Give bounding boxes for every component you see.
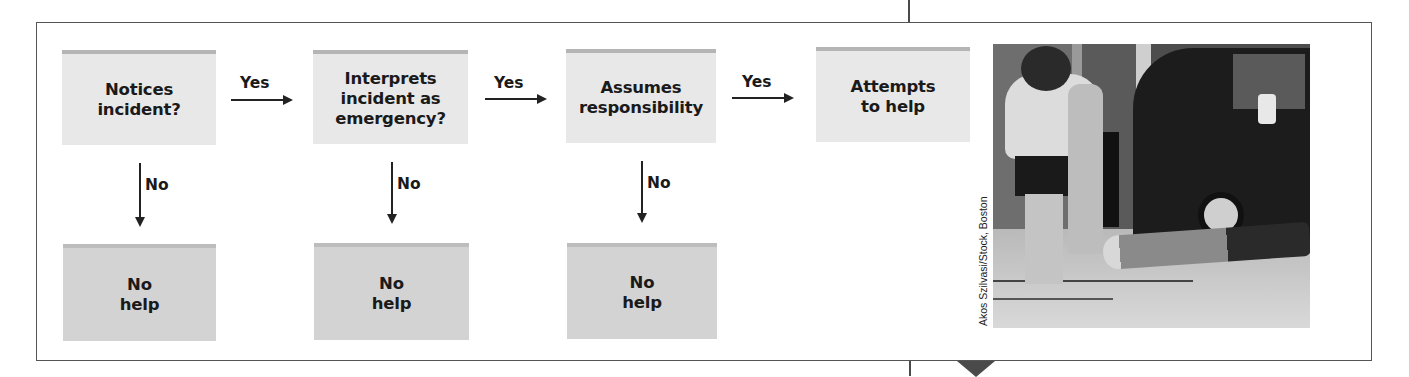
yes-label: Yes bbox=[240, 74, 270, 92]
outcome-label: No help bbox=[372, 274, 412, 314]
pedestrian-hair bbox=[1021, 46, 1071, 91]
pedestrian-shorts bbox=[1015, 156, 1073, 196]
yes-arrow-icon bbox=[231, 99, 291, 101]
bollard bbox=[1103, 132, 1119, 227]
step-notices-incident: Notices incident? bbox=[62, 50, 216, 145]
no-label: No bbox=[647, 174, 671, 192]
outcome-no-help: No help bbox=[314, 243, 469, 340]
step-label: Interprets incident as emergency? bbox=[335, 69, 446, 129]
no-label: No bbox=[145, 176, 169, 194]
sidewalk-crack bbox=[993, 280, 1193, 282]
no-arrow-icon bbox=[391, 162, 393, 222]
pedestrian-legs bbox=[1025, 194, 1063, 284]
step-interprets-emergency: Interprets incident as emergency? bbox=[313, 50, 468, 144]
page-marker-triangle-icon bbox=[957, 361, 995, 377]
yes-arrow-icon bbox=[732, 97, 792, 99]
photo-credit: Akos Szilvasi/Stock, Boston bbox=[977, 196, 989, 326]
sidewalk-crack bbox=[993, 298, 1113, 300]
van-mirror bbox=[1258, 94, 1276, 124]
yes-label: Yes bbox=[494, 74, 524, 92]
page-divider-line bbox=[909, 360, 911, 376]
outcome-no-help: No help bbox=[63, 244, 216, 341]
no-arrow-icon bbox=[139, 163, 141, 225]
no-label: No bbox=[397, 175, 421, 193]
page-divider-line bbox=[908, 0, 910, 23]
step-assumes-responsibility: Assumes responsibility bbox=[566, 49, 716, 143]
step-attempts-to-help: Attempts to help bbox=[816, 47, 970, 142]
pedestrian-second bbox=[1068, 84, 1103, 254]
yes-label: Yes bbox=[742, 73, 772, 91]
yes-arrow-icon bbox=[485, 98, 545, 100]
step-label: Notices incident? bbox=[97, 80, 180, 120]
outcome-label: No help bbox=[622, 273, 662, 313]
outcome-no-help: No help bbox=[567, 243, 717, 339]
no-arrow-icon bbox=[641, 161, 643, 221]
step-label: Assumes responsibility bbox=[579, 78, 703, 118]
step-label: Attempts to help bbox=[851, 77, 936, 117]
bystander-photo bbox=[993, 44, 1310, 328]
outcome-label: No help bbox=[120, 275, 160, 315]
